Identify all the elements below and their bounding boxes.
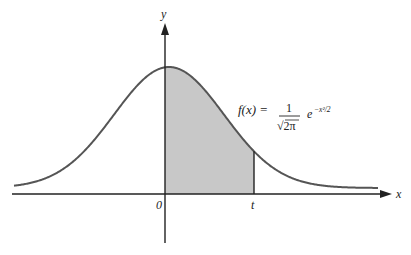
x-axis-label: x — [395, 187, 402, 201]
origin-label: 0 — [156, 198, 162, 212]
formula-numerator: 1 — [286, 101, 292, 115]
formula-denominator: √2π — [277, 119, 296, 133]
x-axis-arrow-icon — [380, 190, 392, 198]
t-label: t — [251, 198, 255, 212]
y-axis-arrow-icon — [161, 23, 169, 35]
shaded-area — [165, 67, 254, 194]
formula-exponent: −x²/2 — [314, 105, 331, 114]
normal-curve-diagram: y x 0 t f(x) = 1 √2π e −x²/2 — [0, 0, 411, 255]
formula-exp-base: e — [307, 107, 313, 121]
y-axis-label: y — [160, 7, 167, 21]
formula-lhs: f(x) = — [238, 102, 268, 117]
density-formula: f(x) = 1 √2π e −x²/2 — [238, 101, 331, 133]
